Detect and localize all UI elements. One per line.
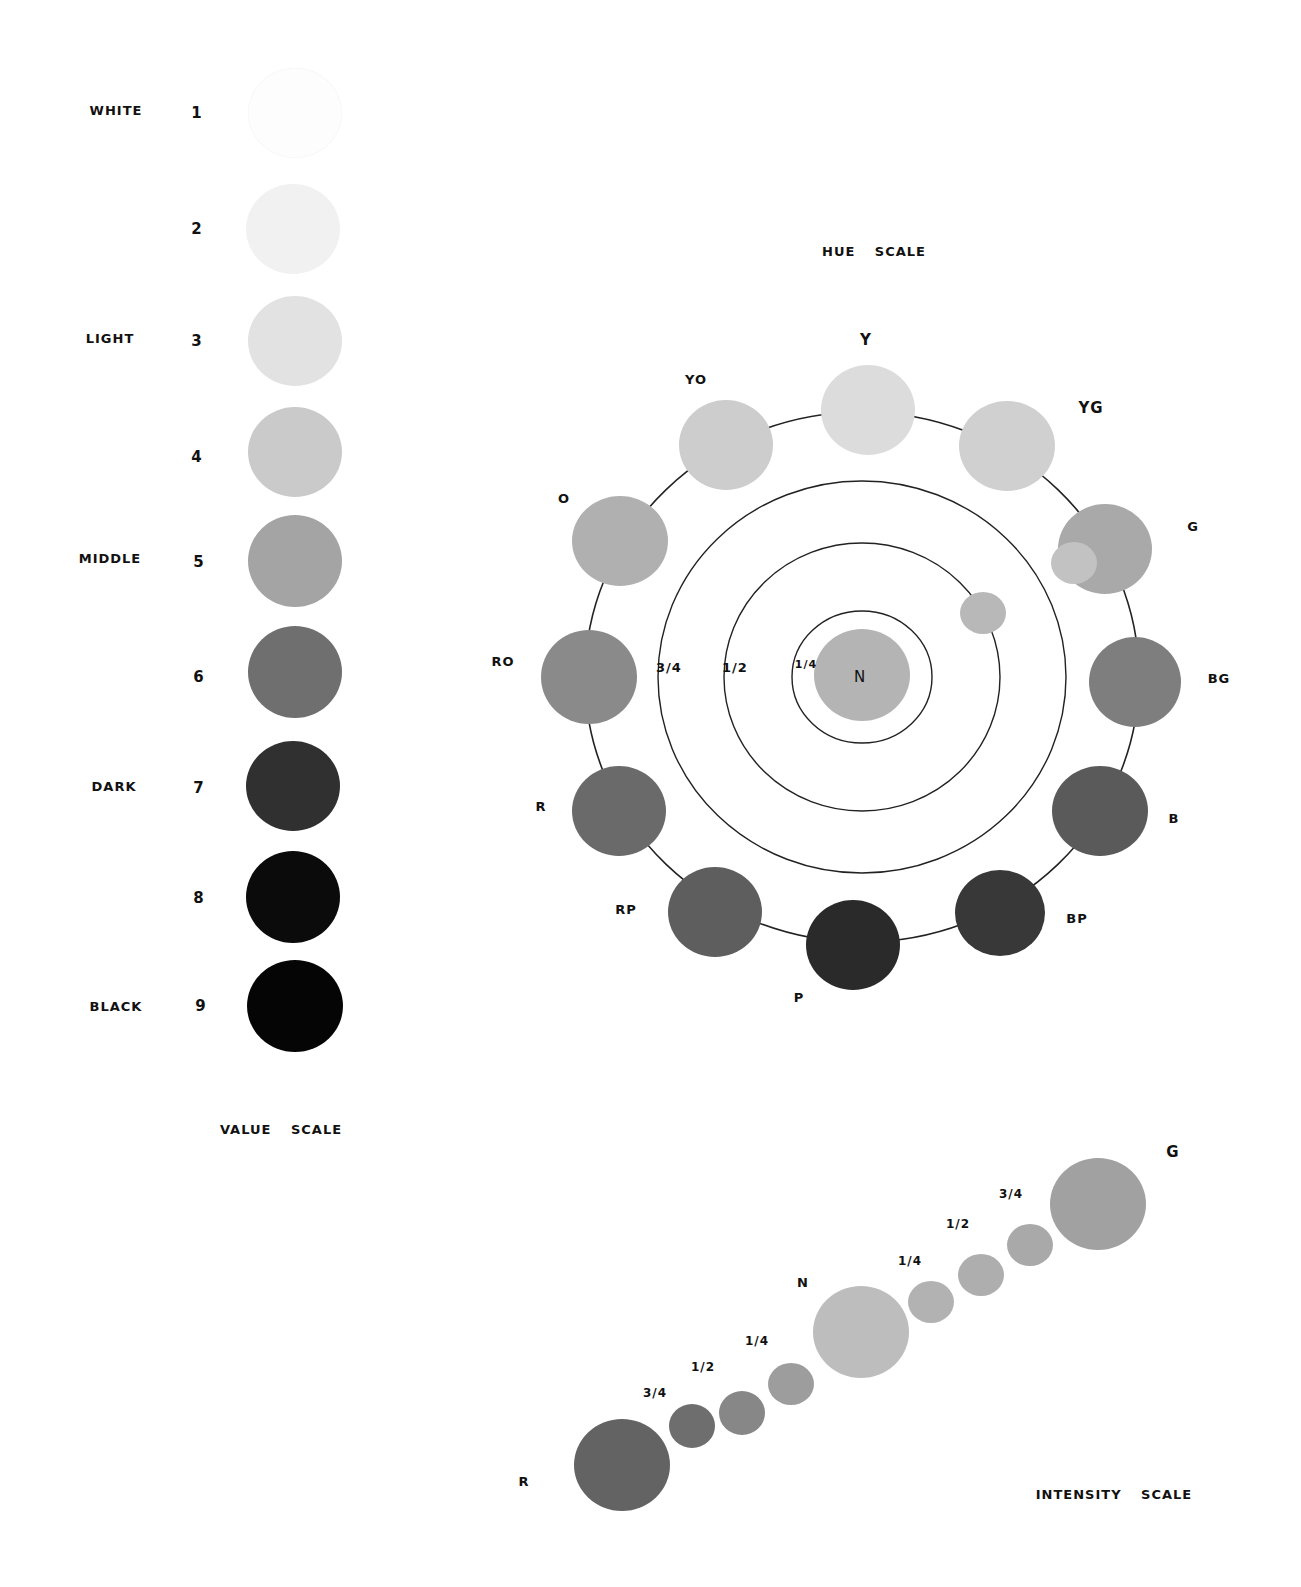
hue-label-bp: BP xyxy=(1066,912,1087,925)
intensity-label-g-quarter: 1/4 xyxy=(898,1255,922,1267)
intensity-label-n: N xyxy=(797,1276,809,1289)
ring-label-half: 1/2 xyxy=(722,661,748,674)
intensity-label-g-half: 1/2 xyxy=(946,1218,970,1230)
intensity-swatch-r xyxy=(574,1419,670,1511)
intensity-swatch-r-quarter xyxy=(768,1363,814,1405)
hue-center-label: N xyxy=(854,670,866,685)
intensity-label-r: R xyxy=(518,1475,529,1488)
intensity-scale-title: INTENSITY SCALE xyxy=(1036,1488,1192,1501)
hue-swatch-yg xyxy=(959,401,1055,491)
hue-label-o: O xyxy=(558,492,570,505)
hue-half-intensity-dot xyxy=(960,592,1006,634)
hue-label-yg: YG xyxy=(1078,401,1103,416)
intensity-swatch-g-quarter xyxy=(908,1281,954,1323)
intensity-swatch-g xyxy=(1050,1158,1146,1250)
ring-label-quarter: 1/4 xyxy=(795,659,817,670)
intensity-label-r-quarter: 1/4 xyxy=(745,1335,769,1347)
hue-swatch-r xyxy=(572,766,666,856)
hue-label-rp: RP xyxy=(615,903,637,916)
hue-swatch-bg xyxy=(1089,637,1181,727)
intensity-swatch-g-three-quarter xyxy=(1007,1224,1053,1266)
hue-label-b: B xyxy=(1169,812,1180,825)
intensity-swatch-n xyxy=(813,1286,909,1378)
intensity-swatch-g-half xyxy=(958,1254,1004,1296)
hue-swatch-o xyxy=(572,496,668,586)
hue-swatch-rp xyxy=(668,867,762,957)
hue-swatch-yo xyxy=(679,400,773,490)
hue-label-r: R xyxy=(535,800,546,813)
intensity-label-r-three-quarter: 3/4 xyxy=(643,1387,667,1399)
hue-swatch-bp xyxy=(955,870,1045,956)
ring-label-three-quarter: 3/4 xyxy=(656,661,682,674)
hue-swatch-p xyxy=(806,900,900,990)
hue-swatch-b xyxy=(1052,766,1148,856)
hue-label-yo: YO xyxy=(685,373,707,386)
intensity-label-r-half: 1/2 xyxy=(691,1361,715,1373)
intensity-swatch-r-half xyxy=(719,1391,765,1435)
hue-label-y: Y xyxy=(860,333,872,348)
hue-label-bg: BG xyxy=(1208,672,1231,685)
hue-label-p: P xyxy=(794,991,805,1004)
hue-label-g: G xyxy=(1187,520,1199,533)
hue-swatch-ro xyxy=(541,630,637,724)
intensity-label-g-three-quarter: 3/4 xyxy=(999,1188,1023,1200)
intensity-swatch-r-three-quarter xyxy=(669,1404,715,1448)
intensity-label-g: G xyxy=(1166,1145,1179,1160)
hue-swatch-y xyxy=(821,365,915,455)
hue-label-ro: RO xyxy=(491,655,514,668)
hue-swatch-g-overlap xyxy=(1051,542,1097,584)
